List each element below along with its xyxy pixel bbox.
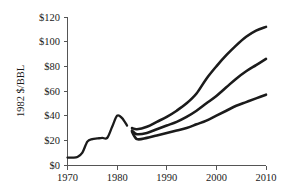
x-tick-label: 2000 [206,172,227,183]
y-tick-label: $120 [39,12,60,23]
y-tick-label: $80 [44,61,60,72]
y-tick-label: $40 [44,110,60,121]
chart-canvas: $0$20$40$60$80$100$120 19701980199020002… [0,0,285,196]
y-tick-label: $100 [39,36,60,47]
y-tick-label: $20 [44,135,60,146]
x-tick-label: 2010 [256,172,277,183]
chart-background [0,0,285,196]
x-tick-label: 1970 [57,172,78,183]
y-tick-label: $60 [44,86,60,97]
y-axis-title: 1982 $/BBL [15,65,26,117]
y-tick-label: $0 [50,160,61,171]
x-tick-label: 1990 [156,172,177,183]
oil-price-projection-chart: $0$20$40$60$80$100$120 19701980199020002… [0,0,285,196]
x-tick-label: 1980 [107,172,128,183]
